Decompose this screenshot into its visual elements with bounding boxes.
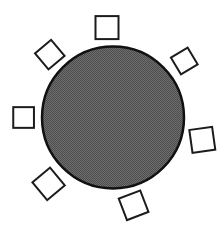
node-square-lower-left bbox=[32, 168, 64, 200]
central-disc bbox=[42, 47, 184, 189]
node-square-upper-left bbox=[35, 40, 65, 70]
node-square-left bbox=[13, 107, 34, 128]
diagram-svg bbox=[0, 0, 220, 232]
node-square-right bbox=[189, 127, 215, 153]
diagram-canvas bbox=[0, 0, 220, 232]
node-square-bottom bbox=[119, 190, 149, 220]
node-square-upper-right bbox=[171, 48, 198, 75]
node-square-top bbox=[96, 16, 119, 39]
